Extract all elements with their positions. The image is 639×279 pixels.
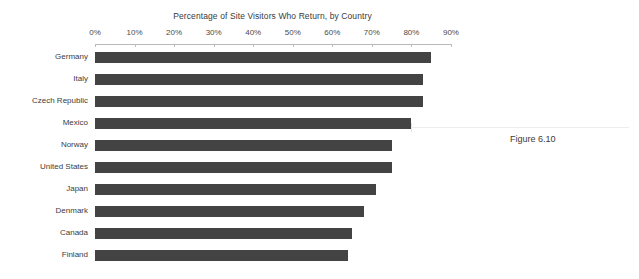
x-tick-label: 70%	[364, 28, 380, 37]
bar-row: Denmark	[0, 202, 639, 224]
category-label-denmark: Denmark	[0, 206, 88, 215]
category-label-united-states: United States	[0, 162, 88, 171]
bar-row: Finland	[0, 246, 639, 268]
x-axis-tick	[135, 44, 136, 47]
x-axis-line	[95, 44, 451, 45]
x-tick-label: 40%	[245, 28, 261, 37]
x-axis-tick	[332, 44, 333, 47]
category-label-canada: Canada	[0, 228, 88, 237]
x-tick-label: 30%	[206, 28, 222, 37]
bar-denmark	[95, 206, 364, 217]
category-label-germany: Germany	[0, 52, 88, 61]
category-label-japan: Japan	[0, 184, 88, 193]
x-axis-tick	[372, 44, 373, 47]
bar-germany	[95, 52, 431, 63]
figure-caption: Figure 6.10	[510, 134, 556, 144]
bar-italy	[95, 74, 423, 85]
category-label-mexico: Mexico	[0, 118, 88, 127]
bar-united-states	[95, 162, 392, 173]
x-tick-label: 80%	[403, 28, 419, 37]
x-axis-tick	[95, 44, 96, 47]
x-tick-label: 50%	[285, 28, 301, 37]
bar-row: Japan	[0, 180, 639, 202]
x-axis-tick	[293, 44, 294, 47]
category-label-italy: Italy	[0, 74, 88, 83]
bar-canada	[95, 228, 352, 239]
chart-figure: Percentage of Site Visitors Who Return, …	[0, 0, 639, 279]
x-axis-tick	[451, 44, 452, 47]
bar-row: Czech Republic	[0, 92, 639, 114]
x-tick-label: 90%	[443, 28, 459, 37]
leader-line	[411, 127, 629, 128]
x-axis-tick	[214, 44, 215, 47]
category-label-finland: Finland	[0, 250, 88, 259]
x-axis-tick	[174, 44, 175, 47]
bar-finland	[95, 250, 348, 261]
chart-title: Percentage of Site Visitors Who Return, …	[95, 11, 450, 21]
x-tick-label: 20%	[166, 28, 182, 37]
bar-norway	[95, 140, 392, 151]
x-tick-label: 0%	[89, 28, 101, 37]
x-axis-tick	[253, 44, 254, 47]
plot-area: GermanyItalyCzech RepublicMexicoNorwayUn…	[0, 48, 639, 279]
bar-row: Mexico	[0, 114, 639, 136]
x-tick-label: 60%	[324, 28, 340, 37]
x-axis-tick-labels: 0%10%20%30%40%50%60%70%80%90%	[0, 28, 639, 40]
x-axis-tick	[411, 44, 412, 47]
bar-row: Canada	[0, 224, 639, 246]
bar-row: Italy	[0, 70, 639, 92]
category-label-norway: Norway	[0, 140, 88, 149]
bar-japan	[95, 184, 376, 195]
bar-row: Germany	[0, 48, 639, 70]
bar-czech-republic	[95, 96, 423, 107]
category-label-czech-republic: Czech Republic	[0, 96, 88, 105]
bar-row: United States	[0, 158, 639, 180]
bar-mexico	[95, 118, 411, 129]
x-tick-label: 10%	[127, 28, 143, 37]
